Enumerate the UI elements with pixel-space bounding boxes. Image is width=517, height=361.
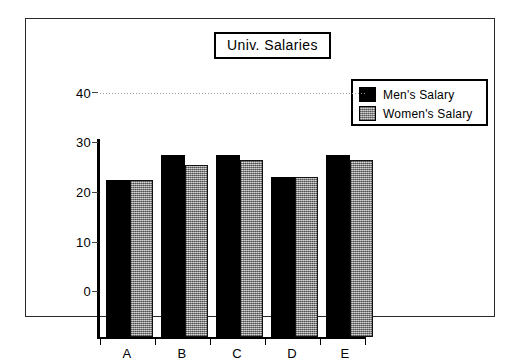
x-tick-mark-0 bbox=[100, 339, 101, 345]
y-tick-mark-0 bbox=[92, 291, 98, 292]
plot-area: 40 30 20 10 0 A B C D bbox=[61, 71, 331, 286]
y-tick-label-40: 40 bbox=[61, 86, 91, 101]
y-tick-label-20: 20 bbox=[61, 185, 91, 200]
x-tick-label-D: D bbox=[280, 346, 304, 361]
y-tick-label-0: 0 bbox=[61, 284, 91, 299]
bar-women-A bbox=[130, 180, 153, 338]
legend-swatch-gray-icon bbox=[359, 106, 376, 121]
x-tick-label-B: B bbox=[170, 346, 194, 361]
y-tick-mark-40 bbox=[92, 92, 98, 93]
bar-women-B bbox=[185, 165, 208, 338]
bar-men-D bbox=[271, 177, 295, 337]
bar-men-A bbox=[106, 180, 130, 338]
bar-men-B bbox=[161, 155, 185, 338]
bar-men-E bbox=[326, 155, 350, 338]
legend-label-mens-salary: Men's Salary bbox=[383, 88, 454, 102]
bar-women-E bbox=[350, 160, 373, 338]
y-tick-label-10: 10 bbox=[61, 235, 91, 250]
y-tick-mark-10 bbox=[92, 242, 98, 243]
bar-women-C bbox=[240, 160, 263, 338]
legend-swatch-black-icon bbox=[359, 87, 376, 102]
legend-item-mens-salary: Men's Salary bbox=[359, 85, 486, 104]
x-tick-label-A: A bbox=[115, 346, 139, 361]
x-tick-mark-3 bbox=[265, 339, 266, 345]
y-tick-mark-30 bbox=[92, 142, 98, 143]
chart-title-box: Univ. Salaries bbox=[214, 32, 331, 59]
chart-frame: Univ. Salaries Men's Salary Women's Sala… bbox=[25, 18, 495, 317]
bar-group-container bbox=[100, 137, 366, 337]
x-tick-mark-1 bbox=[155, 339, 156, 345]
legend-item-womens-salary: Women's Salary bbox=[359, 104, 486, 123]
x-axis-line bbox=[97, 337, 366, 339]
x-tick-mark-4 bbox=[320, 339, 321, 345]
legend-label-womens-salary: Women's Salary bbox=[383, 107, 473, 121]
y-tick-label-30: 30 bbox=[61, 135, 91, 150]
x-tick-label-E: E bbox=[333, 346, 357, 361]
y-tick-mark-20 bbox=[92, 192, 98, 193]
x-tick-label-C: C bbox=[225, 346, 249, 361]
bar-men-C bbox=[216, 155, 240, 338]
chart-legend: Men's Salary Women's Salary bbox=[351, 79, 488, 126]
bar-women-D bbox=[295, 177, 318, 337]
gridline-40 bbox=[100, 93, 366, 94]
chart-title: Univ. Salaries bbox=[227, 37, 318, 53]
x-tick-mark-2 bbox=[210, 339, 211, 345]
x-tick-mark-5 bbox=[365, 339, 366, 345]
